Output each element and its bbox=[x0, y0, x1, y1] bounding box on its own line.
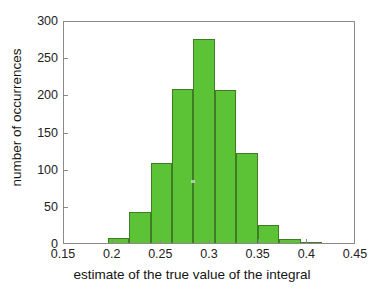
x-tick-label: 0.25 bbox=[148, 248, 172, 261]
x-tick-label: 0.2 bbox=[103, 248, 120, 261]
x-tick-label: 0.35 bbox=[245, 248, 269, 261]
x-tick-mark bbox=[209, 239, 210, 244]
histogram-bar bbox=[193, 39, 214, 243]
histogram-bar bbox=[279, 239, 300, 243]
y-tick-mark bbox=[63, 95, 68, 96]
y-tick-mark bbox=[63, 133, 68, 134]
scan-artifact-speck bbox=[191, 180, 195, 183]
y-tick-label: 200 bbox=[18, 89, 58, 102]
histogram-bar bbox=[129, 212, 150, 243]
y-axis-title: number of occurrences bbox=[9, 18, 24, 218]
y-tick-label: 100 bbox=[18, 163, 58, 176]
x-tick-mark bbox=[112, 239, 113, 244]
x-axis-title: estimate of the true value of the integr… bbox=[0, 267, 384, 282]
x-tick-label: 0.15 bbox=[51, 248, 75, 261]
y-tick-label: 150 bbox=[18, 126, 58, 139]
y-tick-mark bbox=[63, 207, 68, 208]
histogram-figure: 050100150200250300 0.150.20.250.30.350.4… bbox=[0, 0, 384, 296]
plot-area bbox=[63, 21, 355, 244]
y-tick-label: 50 bbox=[18, 201, 58, 214]
histogram-bar bbox=[301, 242, 322, 243]
histogram-bar bbox=[258, 225, 279, 243]
y-tick-label: 250 bbox=[18, 52, 58, 65]
y-tick-mark bbox=[63, 170, 68, 171]
x-tick-mark bbox=[258, 239, 259, 244]
y-tick-mark bbox=[63, 58, 68, 59]
histogram-bar bbox=[172, 89, 193, 243]
x-tick-mark bbox=[306, 239, 307, 244]
x-tick-label: 0.3 bbox=[200, 248, 217, 261]
x-tick-label: 0.4 bbox=[298, 248, 315, 261]
histogram-bar bbox=[236, 153, 257, 243]
x-tick-label: 0.45 bbox=[343, 248, 367, 261]
x-tick-mark bbox=[160, 239, 161, 244]
histogram-bar bbox=[151, 163, 172, 243]
y-tick-label: 300 bbox=[18, 15, 58, 28]
histogram-bar bbox=[215, 90, 236, 243]
